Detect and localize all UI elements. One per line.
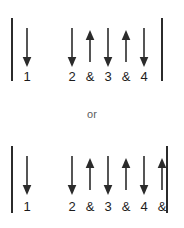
arrow-down-icon <box>139 156 150 196</box>
arrow-down-icon <box>103 156 114 196</box>
arrow-up-icon <box>85 158 96 190</box>
arrow-down-icon <box>103 28 114 68</box>
count-label: 1 <box>18 200 36 214</box>
arrow-down-icon <box>22 156 33 196</box>
arrow-down-icon <box>22 28 33 68</box>
separator-label: or <box>0 108 184 121</box>
arrow-up-icon <box>85 30 96 62</box>
count-label: 4 <box>135 70 153 84</box>
count-label: & <box>81 70 99 84</box>
count-label: 1 <box>18 70 36 84</box>
count-label: 2 <box>63 70 81 84</box>
count-label: 3 <box>99 70 117 84</box>
arrow-up-icon <box>157 158 168 190</box>
count-label: 4 <box>135 200 153 214</box>
arrow-down-icon <box>139 28 150 68</box>
arrow-down-icon <box>67 156 78 196</box>
count-label: 2 <box>63 200 81 214</box>
barline-right <box>161 18 163 81</box>
barline-left <box>11 146 13 213</box>
strumming-pattern-1: 12&3&4 <box>0 0 184 100</box>
count-label: & <box>117 70 135 84</box>
arrow-down-icon <box>67 28 78 68</box>
arrow-up-icon <box>121 30 132 62</box>
arrow-up-icon <box>121 158 132 190</box>
count-label: & <box>81 200 99 214</box>
barline-left <box>11 18 13 81</box>
strumming-pattern-2: 12&3&4& <box>0 132 184 228</box>
count-label: 3 <box>99 200 117 214</box>
count-label: & <box>153 200 171 214</box>
count-label: & <box>117 200 135 214</box>
